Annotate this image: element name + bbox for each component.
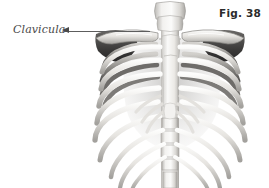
figure-container: Clavicula Fig. 38 [0, 0, 269, 188]
annotation-label-clavicula: Clavicula [13, 23, 65, 36]
annotation-leader-line [64, 31, 150, 32]
figure-caption: Fig. 38 [219, 7, 261, 19]
sternum [161, 35, 180, 108]
